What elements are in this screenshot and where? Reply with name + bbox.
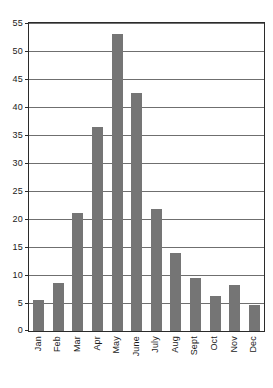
x-axis-label-feb: Feb <box>52 336 62 352</box>
y-axis-tick-25 <box>25 191 29 192</box>
x-axis-label-june: June <box>131 336 141 356</box>
x-axis-label-mar: Mar <box>72 336 82 352</box>
x-axis-label-slot: Sept <box>185 336 205 386</box>
bar-apr <box>92 127 103 331</box>
x-axis-label-jan: Jan <box>33 336 43 351</box>
bar-june <box>131 93 142 331</box>
x-axis-label-sept: Sept <box>189 336 199 355</box>
y-axis-tick-0 <box>25 330 29 331</box>
y-axis-label-0: 0 <box>18 325 23 335</box>
gridline-30 <box>29 163 264 164</box>
x-axis-label-nov: Nov <box>229 336 239 353</box>
gridline-20 <box>29 219 264 220</box>
y-axis-tick-35 <box>25 135 29 136</box>
x-axis-label-slot: Dec <box>243 336 263 386</box>
y-axis-tick-50 <box>25 51 29 52</box>
x-axis-label-slot: Mar <box>67 336 87 386</box>
y-axis-label-20: 20 <box>13 214 23 224</box>
gridline-40 <box>29 107 264 108</box>
bar-feb <box>53 283 64 331</box>
y-axis-label-5: 5 <box>18 298 23 308</box>
y-axis-tick-10 <box>25 275 29 276</box>
bar-jan <box>33 300 44 331</box>
bar-chart: 0510152025303540455055 JanFebMarAprMayJu… <box>0 0 273 388</box>
x-axis-label-july: July <box>150 336 160 353</box>
x-axis-label-slot: May <box>106 336 126 386</box>
x-axis-label-slot: Feb <box>48 336 68 386</box>
gridline-55 <box>29 23 264 24</box>
x-axis-label-aug: Aug <box>170 336 180 353</box>
x-axis-label-dec: Dec <box>248 336 258 353</box>
bar-aug <box>170 253 181 331</box>
y-axis-tick-45 <box>25 79 29 80</box>
y-axis-label-30: 30 <box>13 158 23 168</box>
gridline-15 <box>29 247 264 248</box>
gridline-45 <box>29 79 264 80</box>
y-axis-tick-30 <box>25 163 29 164</box>
x-axis-label-slot: Oct <box>204 336 224 386</box>
y-axis-label-45: 45 <box>13 74 23 84</box>
y-axis-tick-55 <box>25 23 29 24</box>
x-axis-label-apr: Apr <box>92 336 102 351</box>
y-axis-label-50: 50 <box>13 46 23 56</box>
y-axis-label-15: 15 <box>13 242 23 252</box>
bar-mar <box>72 213 83 331</box>
x-axis-label-slot: Jan <box>28 336 48 386</box>
bar-july <box>151 209 162 331</box>
y-axis-tick-20 <box>25 219 29 220</box>
bar-nov <box>229 285 240 331</box>
x-axis-label-slot: Nov <box>224 336 244 386</box>
y-axis-tick-5 <box>25 303 29 304</box>
y-axis-label-40: 40 <box>13 102 23 112</box>
gridline-0 <box>29 331 264 332</box>
bar-dec <box>249 305 260 331</box>
x-axis-label-oct: Oct <box>209 336 219 351</box>
y-axis-label-55: 55 <box>13 18 23 28</box>
y-axis-label-10: 10 <box>13 270 23 280</box>
x-axis-label-slot: Aug <box>165 336 185 386</box>
bar-may <box>112 34 123 331</box>
x-axis-label-slot: Apr <box>87 336 107 386</box>
y-axis-tick-40 <box>25 107 29 108</box>
x-axis-label-may: May <box>111 336 121 354</box>
y-axis-label-35: 35 <box>13 130 23 140</box>
y-axis-tick-15 <box>25 247 29 248</box>
gridline-50 <box>29 51 264 52</box>
gridline-35 <box>29 135 264 136</box>
y-axis-label-25: 25 <box>13 186 23 196</box>
gridline-25 <box>29 191 264 192</box>
gridline-10 <box>29 275 264 276</box>
bar-sept <box>190 278 201 331</box>
x-axis-label-slot: July <box>146 336 166 386</box>
bar-oct <box>210 296 221 331</box>
plot-area: 0510152025303540455055 <box>28 22 265 332</box>
x-axis-label-slot: June <box>126 336 146 386</box>
